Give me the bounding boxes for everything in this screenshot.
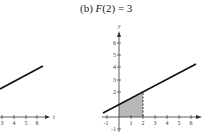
left-function-line bbox=[0, 66, 43, 89]
shaded-area bbox=[119, 93, 143, 117]
y-tick-labels: 6 5 4 3 2 -1 bbox=[111, 40, 116, 132]
left-x-axis-label: t bbox=[53, 114, 55, 120]
function-line bbox=[103, 64, 196, 113]
left-panel: 3 4 5 6 t bbox=[0, 66, 55, 126]
svg-text:3: 3 bbox=[1, 120, 4, 126]
svg-text:4: 4 bbox=[113, 64, 116, 70]
right-panel: -1 1 2 3 4 5 6 6 5 4 3 2 -1 y bbox=[102, 23, 202, 132]
svg-text:1: 1 bbox=[130, 120, 133, 126]
svg-text:-1: -1 bbox=[104, 120, 109, 126]
svg-text:2: 2 bbox=[142, 120, 145, 126]
svg-text:6: 6 bbox=[36, 120, 39, 126]
x-tick-labels: -1 1 2 3 4 5 6 bbox=[104, 120, 193, 126]
left-x-tick-labels: 3 4 5 6 bbox=[1, 120, 39, 126]
svg-text:6: 6 bbox=[113, 40, 116, 46]
left-x-arrow-icon bbox=[45, 115, 50, 119]
svg-text:3: 3 bbox=[154, 120, 157, 126]
y-arrow-icon bbox=[117, 31, 121, 37]
svg-text:5: 5 bbox=[178, 120, 181, 126]
svg-text:6: 6 bbox=[190, 120, 193, 126]
x-arrow-icon bbox=[196, 115, 202, 119]
y-axis-label: y bbox=[117, 23, 121, 29]
svg-text:3: 3 bbox=[113, 77, 116, 83]
svg-text:-1: -1 bbox=[111, 126, 116, 132]
charts-canvas: 3 4 5 6 t bbox=[0, 0, 203, 139]
svg-text:5: 5 bbox=[113, 52, 116, 58]
svg-text:2: 2 bbox=[113, 89, 116, 95]
svg-text:4: 4 bbox=[166, 120, 169, 126]
svg-text:5: 5 bbox=[25, 120, 28, 126]
svg-text:4: 4 bbox=[13, 120, 16, 126]
